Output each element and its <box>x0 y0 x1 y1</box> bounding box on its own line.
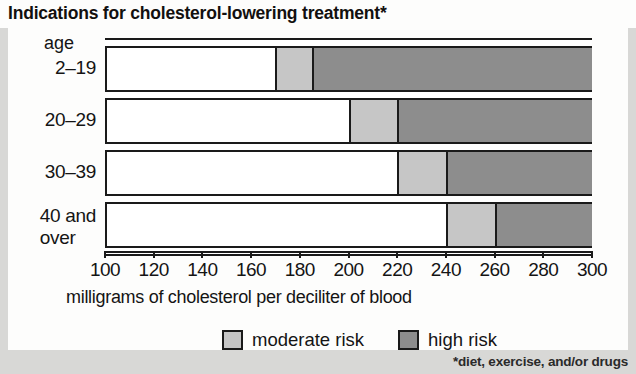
footnote: *diet, exercise, and/or drugs <box>453 354 628 369</box>
bar-row <box>105 152 592 194</box>
bar-row <box>105 100 592 142</box>
grid-strip <box>105 194 592 204</box>
bar-segment-high <box>314 48 592 90</box>
x-tick <box>153 251 155 258</box>
grid-strip <box>105 90 592 100</box>
bar-segment-moderate <box>397 152 448 194</box>
age-label-line: 20–29 <box>45 109 96 130</box>
legend-label-moderate: moderate risk <box>252 329 364 351</box>
x-tick <box>591 251 593 258</box>
bar-segment-high <box>448 152 592 194</box>
age-label-line: over <box>40 227 96 249</box>
x-tick <box>250 251 252 258</box>
age-label: 30–39 <box>45 161 96 183</box>
plot-area <box>105 38 592 251</box>
legend-item-high: high risk <box>398 329 497 351</box>
bar-segment-moderate <box>446 204 497 246</box>
x-tick <box>396 251 398 258</box>
bar-segment-moderate <box>275 48 314 90</box>
age-label-line: 2–19 <box>55 57 96 78</box>
age-label-line: 30–39 <box>45 161 96 182</box>
x-tick-label: 300 <box>562 259 622 281</box>
x-axis-caption: milligrams of cholesterol per deciliter … <box>66 287 412 308</box>
age-axis-header: age <box>44 33 74 54</box>
chart-title: Indications for cholesterol-lowering tre… <box>8 3 387 24</box>
bar-row <box>105 204 592 246</box>
x-tick <box>494 251 496 258</box>
legend-label-high: high risk <box>428 329 497 351</box>
x-tick <box>348 251 350 258</box>
bar-segment-high <box>399 100 592 142</box>
legend-swatch-high-icon <box>398 330 419 350</box>
chart-page: Indications for cholesterol-lowering tre… <box>0 0 636 374</box>
age-label: 20–29 <box>45 109 96 131</box>
bar-segment-moderate <box>349 100 400 142</box>
legend: moderate risk high risk <box>222 329 497 351</box>
x-tick <box>445 251 447 258</box>
x-tick <box>299 251 301 258</box>
x-tick <box>542 251 544 258</box>
age-label-line: 40 and <box>40 205 96 227</box>
age-label: 40 andover <box>40 205 96 249</box>
legend-item-moderate: moderate risk <box>222 329 364 351</box>
age-label: 2–19 <box>55 57 96 79</box>
grid-strip <box>105 38 592 48</box>
bar-row <box>105 48 592 90</box>
grid-strip <box>105 142 592 152</box>
bar-segment-high <box>497 204 592 246</box>
legend-swatch-moderate-icon <box>222 330 243 350</box>
x-tick <box>201 251 203 258</box>
x-tick <box>104 251 106 258</box>
